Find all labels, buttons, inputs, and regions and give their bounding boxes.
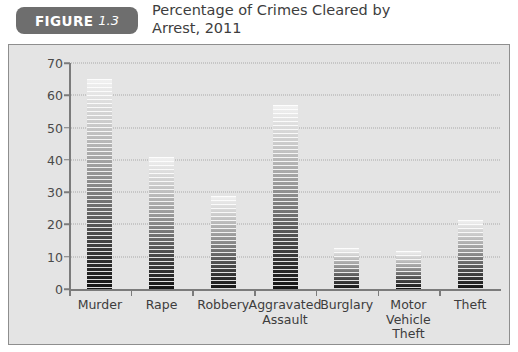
bar [87,79,112,289]
bar [211,196,236,289]
x-axis-category-label: Theft [433,298,507,313]
y-axis-tick-label: 70 [47,56,63,71]
bar [458,220,483,289]
chart-panel: 010203040506070 MurderRapeRobberyAggrava… [8,44,510,345]
y-axis-tick-label: 50 [47,120,63,135]
y-axis-tick-label: 10 [47,249,63,264]
y-axis-tick-label: 30 [47,185,63,200]
figure-badge-word: FIGURE [35,13,93,29]
bar [149,157,174,289]
y-axis-tick-label: 0 [55,282,63,297]
y-axis-tick-label: 20 [47,217,63,232]
x-axis-tick-mark [131,290,133,296]
x-axis-tick-mark [316,290,318,296]
bars-layer [69,63,501,289]
x-axis-line [69,289,501,291]
x-axis-tick-mark [192,290,194,296]
y-axis-tick-label: 60 [47,88,63,103]
figure-badge: FIGURE 1.3 [16,7,138,34]
y-axis-tick-label: 40 [47,152,63,167]
figure-header: FIGURE 1.3 Percentage of Crimes Cleared … [0,0,518,44]
bar [396,251,421,289]
x-axis-tick-mark [69,290,71,296]
x-axis-tick-mark [439,290,441,296]
bar [273,105,298,289]
figure-badge-number: 1.3 [98,13,119,28]
figure-title: Percentage of Crimes Cleared by Arrest, … [152,2,482,37]
bar [334,248,359,289]
x-axis-tick-mark [254,290,256,296]
x-axis-tick-mark [378,290,380,296]
